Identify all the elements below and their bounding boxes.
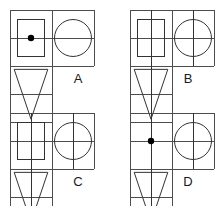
- option-label-b: B: [184, 71, 193, 86]
- option-label-d: D: [183, 174, 192, 189]
- option-label-a: A: [74, 71, 83, 86]
- panel-a: A: [10, 10, 94, 122]
- panel-d-grid: [130, 113, 214, 206]
- panel-b-grid: [130, 10, 214, 122]
- panel-d: D: [130, 113, 214, 206]
- panel-b: B: [130, 10, 214, 122]
- panel-c: C: [10, 113, 94, 206]
- figure-root: ABCD: [0, 0, 219, 206]
- front-view-center-dot: [28, 35, 34, 41]
- front-view-d: [148, 113, 154, 206]
- panel-a-grid: [10, 10, 94, 122]
- option-label-c: C: [73, 174, 82, 189]
- front-view-center-dot: [148, 138, 154, 144]
- orthographic-projection-figure: ABCD: [0, 0, 219, 206]
